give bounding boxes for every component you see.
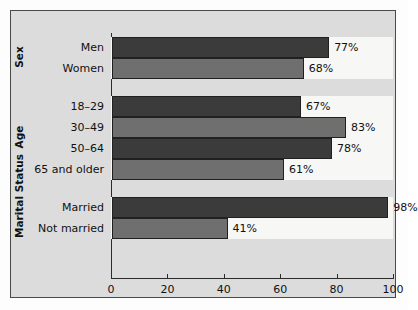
bar [112, 117, 346, 138]
bar [112, 218, 228, 239]
x-tick-label: 0 [108, 283, 115, 296]
bar [112, 37, 329, 58]
x-tick-mark [337, 274, 338, 279]
category-label: 50–64 [18, 142, 104, 155]
bar [112, 197, 388, 218]
category-label: Men [18, 41, 104, 54]
bar [112, 96, 301, 117]
category-label: Not married [18, 222, 104, 235]
bar-value-label: 67% [306, 100, 330, 113]
category-label: 65 and older [18, 163, 104, 176]
bar-value-label: 98% [393, 201, 417, 214]
category-label: 30–49 [18, 121, 104, 134]
category-label: Women [18, 62, 104, 75]
chart-panel: 020406080100 77%68%67%83%78%61%98%41% Me… [10, 10, 396, 298]
group-title-sex: Sex [13, 36, 25, 78]
x-tick-mark [393, 274, 394, 279]
bar [112, 159, 284, 180]
x-tick-label: 80 [330, 283, 344, 296]
category-label: Married [18, 201, 104, 214]
x-tick-label: 20 [160, 283, 174, 296]
bar-value-label: 77% [334, 41, 358, 54]
x-tick-label: 40 [217, 283, 231, 296]
bar-value-label: 78% [337, 142, 361, 155]
x-tick-label: 60 [273, 283, 287, 296]
x-axis-line [111, 278, 394, 279]
x-tick-mark [224, 274, 225, 279]
bar [112, 58, 304, 79]
category-label: 18–29 [18, 100, 104, 113]
bar-value-label: 68% [309, 62, 333, 75]
group-title-marital-status: Marital Status [13, 196, 25, 238]
plot-area: 020406080100 77%68%67%83%78%61%98%41% Me… [111, 33, 393, 278]
bar-value-label: 41% [233, 222, 257, 235]
x-tick-mark [111, 274, 112, 279]
bar-value-label: 83% [351, 121, 375, 134]
x-tick-mark [280, 274, 281, 279]
bar [112, 138, 332, 159]
x-tick-mark [167, 274, 168, 279]
bar-value-label: 61% [289, 163, 313, 176]
x-tick-label: 100 [383, 283, 404, 296]
